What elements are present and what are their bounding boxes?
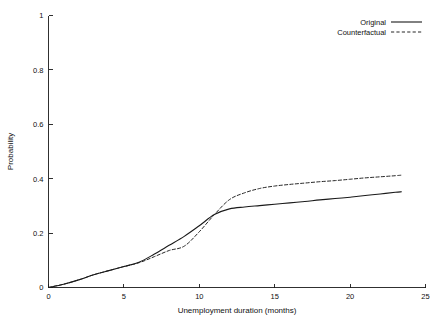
y-tick-label: 0.6 xyxy=(33,120,43,129)
y-tick-label: 1 xyxy=(39,11,43,20)
x-tick-label: 20 xyxy=(346,292,354,301)
x-tick-label: 15 xyxy=(271,292,279,301)
y-tick-label: 0 xyxy=(39,283,43,292)
x-tick-label: 25 xyxy=(421,292,429,301)
x-tick-label: 10 xyxy=(195,292,203,301)
y-tick-label: 0.4 xyxy=(33,175,43,184)
chart-figure: 051015202500.20.40.60.81Unemployment dur… xyxy=(0,0,435,326)
x-tick-label: 5 xyxy=(122,292,126,301)
y-axis-title: Probability xyxy=(6,133,15,170)
series-line-counterfactual xyxy=(49,175,402,287)
line-chart: 051015202500.20.40.60.81Unemployment dur… xyxy=(0,0,435,326)
x-tick-label: 0 xyxy=(46,292,50,301)
x-axis-title: Unemployment duration (months) xyxy=(178,306,297,315)
y-tick-label: 0.8 xyxy=(33,66,43,75)
y-tick-label: 0.2 xyxy=(33,229,43,238)
legend-label-counterfactual: Counterfactual xyxy=(337,28,386,37)
series-line-original xyxy=(49,192,402,288)
legend-label-original: Original xyxy=(360,18,386,27)
